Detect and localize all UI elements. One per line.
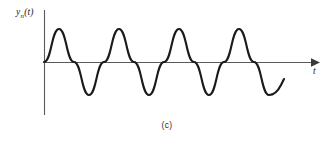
x-axis-label: t (313, 66, 316, 76)
y-axis-label-arg: (t) (24, 7, 34, 17)
figure-container: yn(t) t (c) (0, 0, 334, 147)
y-axis-label: yn(t) (16, 7, 34, 20)
figure-caption: (c) (0, 120, 334, 130)
